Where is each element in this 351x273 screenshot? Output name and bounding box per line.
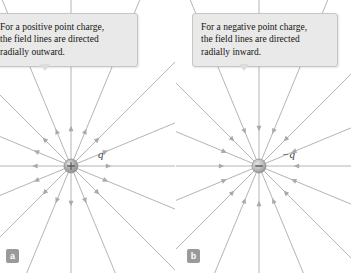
panel-badge-b: b bbox=[187, 249, 200, 263]
electric-field-lines-figure: For a positive point charge, the field l… bbox=[0, 0, 351, 273]
charge-label-positive: q bbox=[98, 148, 104, 160]
panel-b-negative-charge: For a negative point charge, the field l… bbox=[176, 0, 351, 273]
callout-b-line-3: radially inward. bbox=[201, 46, 329, 58]
callout-a-line-2: the field lines are directed bbox=[0, 33, 129, 45]
callout-positive-charge: For a positive point charge, the field l… bbox=[0, 13, 138, 67]
callout-b-tail bbox=[239, 64, 249, 71]
callout-a-line-1: For a positive point charge, bbox=[0, 21, 129, 33]
callout-negative-charge: For a negative point charge, the field l… bbox=[192, 13, 338, 67]
callout-a-line-3: radially outward. bbox=[0, 46, 129, 58]
panel-badge-a: a bbox=[6, 249, 19, 263]
callout-b-line-1: For a negative point charge, bbox=[201, 21, 329, 33]
panel-a-positive-charge: For a positive point charge, the field l… bbox=[0, 0, 175, 273]
callout-a-tail bbox=[40, 64, 50, 71]
charge-label-negative: −q bbox=[282, 148, 295, 160]
callout-b-line-2: the field lines are directed bbox=[201, 33, 329, 45]
